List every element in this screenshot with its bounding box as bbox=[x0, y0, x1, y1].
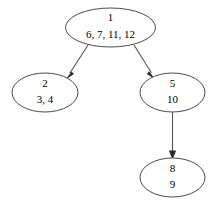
node-label-bottom: 6, 7, 11, 12 bbox=[86, 28, 135, 40]
edge-node5-to-node8 bbox=[169, 112, 176, 160]
node-label-top: 2 bbox=[42, 77, 48, 89]
edge-node1-to-node5 bbox=[134, 45, 156, 79]
tree-diagram: 1 6, 7, 11, 12 2 3, 4 5 10 8 9 bbox=[0, 0, 216, 211]
graph-canvas: 1 6, 7, 11, 12 2 3, 4 5 10 8 9 bbox=[0, 0, 216, 211]
node-1[interactable]: 1 6, 7, 11, 12 bbox=[66, 8, 156, 47]
node-label-top: 1 bbox=[108, 11, 114, 23]
node-label-top: 5 bbox=[170, 77, 176, 89]
node-8[interactable]: 8 9 bbox=[140, 158, 205, 197]
node-group: 1 6, 7, 11, 12 2 3, 4 5 10 8 9 bbox=[12, 8, 205, 197]
node-2[interactable]: 2 3, 4 bbox=[12, 73, 78, 112]
node-5[interactable]: 5 10 bbox=[140, 73, 205, 112]
edge-line bbox=[70, 45, 88, 73]
node-label-bottom: 9 bbox=[170, 178, 176, 190]
node-label-bottom: 10 bbox=[167, 93, 179, 105]
node-label-top: 8 bbox=[170, 162, 176, 174]
node-label-bottom: 3, 4 bbox=[37, 93, 54, 105]
edge-line bbox=[134, 45, 151, 73]
edge-node1-to-node2 bbox=[66, 45, 89, 80]
